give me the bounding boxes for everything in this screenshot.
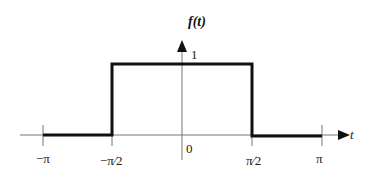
x-tick-neg-pi: −π xyxy=(36,152,50,165)
x-axis-label: t xyxy=(350,128,354,141)
y-tick-one: 1 xyxy=(191,48,198,61)
chart-title: f(t) xyxy=(188,14,206,30)
origin-label: 0 xyxy=(186,142,193,155)
x-tick-neg-pi-half: −π∕2 xyxy=(100,154,123,167)
x-axis-arrow-icon xyxy=(338,130,350,140)
x-tick-pi-half: π∕2 xyxy=(246,154,261,167)
y-axis-arrow-icon xyxy=(177,40,187,52)
x-tick-pi: π xyxy=(316,152,323,165)
